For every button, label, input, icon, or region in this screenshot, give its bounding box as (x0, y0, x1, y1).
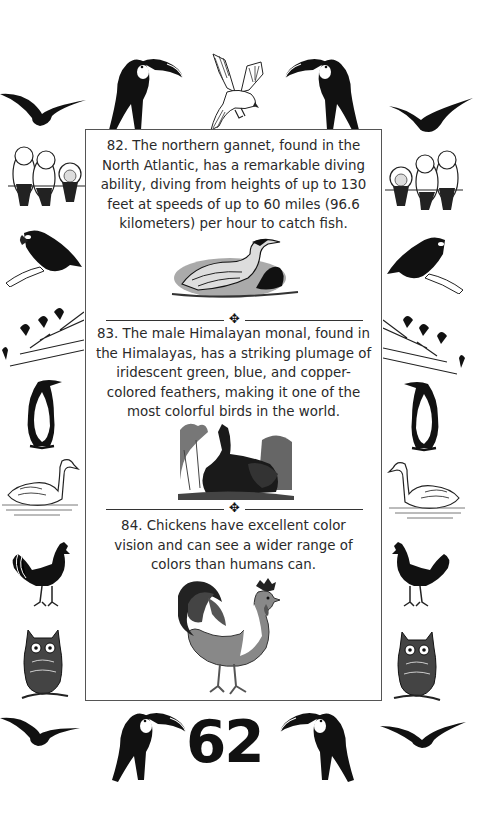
page-number: 62 (186, 712, 263, 772)
fact-83: 83. The male Himalayan monal, found in t… (86, 324, 381, 422)
toucan-icon (283, 52, 363, 134)
parrot-on-branch-icon (4, 225, 84, 287)
fact-line: colors than humans can. (90, 555, 377, 575)
facts-box: 82. The northern gannet, found in the No… (85, 129, 382, 701)
fact-line: the Himalayas, has a striking plumage of (90, 344, 377, 364)
owl-icon (392, 628, 444, 704)
parrot-on-branch-icon (385, 232, 465, 294)
flying-bird-silhouette-icon (0, 88, 88, 128)
white-bird-flying-icon (205, 52, 267, 132)
birds-on-branches-icon (0, 300, 84, 370)
owl-icon (18, 626, 70, 702)
divider-line (106, 509, 224, 510)
divider-line (245, 320, 363, 321)
rooster-icon (8, 540, 74, 608)
toucan-icon (108, 706, 188, 784)
flying-bird-silhouette-icon (0, 708, 82, 748)
fact-line: North Atlantic, has a remarkable diving (90, 156, 377, 176)
swan-icon (0, 455, 82, 517)
fact-84: 84. Chickens have excellent color vision… (86, 516, 381, 575)
penguin-icon (400, 378, 446, 454)
toucan-icon (105, 52, 185, 134)
flying-bird-silhouette-icon (380, 712, 468, 750)
divider-line (245, 509, 363, 510)
fact-line: iridescent green, blue, and copper- (90, 363, 377, 383)
swan-icon (385, 458, 467, 520)
fact-line: 84. Chickens have excellent color (90, 516, 377, 536)
owls-on-wire-icon (8, 144, 86, 208)
section-divider: ✥ (106, 504, 363, 514)
fact-line: kilometers) per hour to catch fish. (90, 214, 377, 234)
rooster-illustration (174, 576, 292, 700)
fact-line: vision and can see a wider range of (90, 536, 377, 556)
northern-gannet-illustration (168, 234, 302, 302)
rooster-icon (388, 540, 454, 608)
toucan-icon (278, 706, 358, 784)
flying-bird-silhouette-icon (385, 96, 475, 136)
penguin-icon (20, 376, 66, 452)
owls-on-wire-icon (385, 148, 463, 212)
himalayan-monal-illustration (178, 420, 294, 500)
fact-line: colored feathers, making it one of the (90, 383, 377, 403)
fact-line: 82. The northern gannet, found in the (90, 136, 377, 156)
fact-line: feet at speeds of up to 60 miles (96.6 (90, 195, 377, 215)
fact-line: 83. The male Himalayan monal, found in (90, 324, 377, 344)
divider-line (106, 320, 224, 321)
fact-line: ability, diving from heights of up to 13… (90, 175, 377, 195)
fact-82: 82. The northern gannet, found in the No… (86, 136, 381, 234)
ornament-icon: ✥ (229, 501, 240, 515)
birds-on-branches-icon (383, 308, 467, 378)
